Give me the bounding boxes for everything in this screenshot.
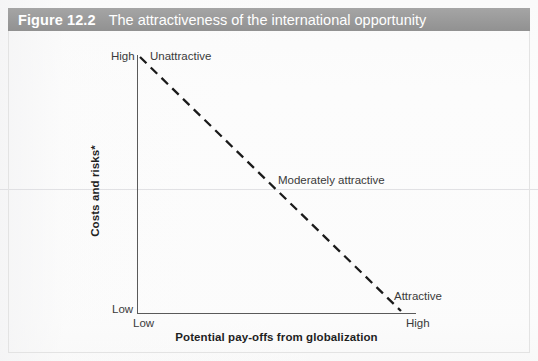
figure-container: Figure 12.2 The attractiveness of the in… — [0, 0, 538, 361]
annotation-attractive: Attractive — [394, 290, 442, 302]
y-axis-title: Costs and risks* — [89, 91, 101, 291]
annotation-moderately-attractive: Moderately attractive — [278, 174, 385, 186]
x-axis-title: Potential pay-offs from globalization — [137, 331, 416, 343]
attractiveness-frontier-chart — [0, 0, 538, 361]
plot-area: High Low Low High Costs and risks* Poten… — [0, 0, 538, 361]
x-axis-low-tick-label: Low — [133, 317, 154, 329]
y-axis-high-tick-label: High — [111, 50, 135, 62]
y-axis-low-tick-label: Low — [112, 303, 133, 315]
x-axis-high-tick-label: High — [406, 317, 430, 329]
annotation-unattractive: Unattractive — [150, 50, 211, 62]
